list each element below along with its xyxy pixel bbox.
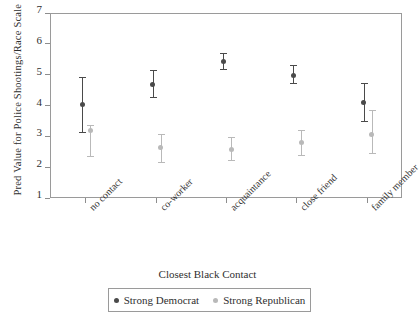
x-tick-mark [85, 198, 86, 203]
y-tick-label: 5 [37, 66, 43, 77]
error-bar-cap-upper [361, 83, 368, 84]
data-point [369, 132, 374, 137]
x-tick-mark [296, 198, 297, 203]
error-bar-cap-lower [228, 160, 235, 161]
error-bar-cap-lower [79, 132, 86, 133]
y-tick-label: 2 [37, 158, 43, 169]
error-bar-cap-lower [150, 97, 157, 98]
plot-area [50, 13, 402, 198]
error-bar-cap-lower [158, 162, 165, 163]
legend-item[interactable]: Strong Democrat [114, 294, 199, 306]
x-tick-mark [367, 198, 368, 203]
x-tick-mark [156, 198, 157, 203]
error-bar-cap-lower [87, 156, 94, 157]
data-point [150, 82, 155, 87]
y-tick-label: 6 [37, 35, 43, 46]
legend-marker-dot-icon [114, 298, 119, 303]
data-point [291, 73, 296, 78]
error-bar-cap-lower [369, 153, 376, 154]
error-bar-cap-upper [158, 134, 165, 135]
data-point [221, 59, 226, 64]
legend-item-label: Strong Democrat [124, 294, 199, 306]
error-bar-cap-lower [220, 69, 227, 70]
error-bar-cap-lower [290, 83, 297, 84]
legend-item[interactable]: Strong Republican [213, 294, 305, 306]
data-point [158, 145, 163, 150]
y-tick-label: 7 [37, 4, 43, 15]
error-bar-cap-upper [290, 65, 297, 66]
error-bar-cap-upper [298, 130, 305, 131]
y-tick-label: 1 [37, 189, 43, 200]
error-bar-cap-upper [369, 110, 376, 111]
data-point [88, 128, 93, 133]
x-tick-mark [226, 198, 227, 203]
chart-legend: Strong DemocratStrong Republican [108, 288, 311, 312]
data-point [229, 147, 234, 152]
error-bar-cap-lower [361, 121, 368, 122]
data-point [361, 100, 366, 105]
error-bar-cap-upper [220, 53, 227, 54]
error-bar-cap-upper [79, 77, 86, 78]
x-axis-title: Closest Black Contact [0, 268, 415, 280]
legend-item-label: Strong Republican [223, 294, 305, 306]
y-axis-title: Pred Value for Police Shootings/Race Sca… [12, 6, 23, 196]
legend-marker-dot-icon [213, 298, 218, 303]
y-tick-label: 4 [37, 97, 43, 108]
error-bar-cap-upper [150, 70, 157, 71]
error-bar-cap-upper [228, 137, 235, 138]
data-point [299, 140, 304, 145]
error-bar-cap-lower [298, 155, 305, 156]
error-bar-cap-upper [87, 125, 94, 126]
data-point [80, 102, 85, 107]
y-tick-label: 3 [37, 127, 43, 138]
